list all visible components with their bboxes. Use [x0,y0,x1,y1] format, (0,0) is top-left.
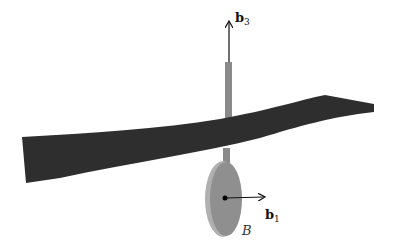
diagram-canvas: b3 b1 B [0,0,393,251]
label-body-B: B [241,223,252,238]
flexible-strip [22,95,374,183]
label-b3: b3 [235,10,250,27]
label-b1: b1 [265,207,280,224]
center-dot [223,196,228,201]
